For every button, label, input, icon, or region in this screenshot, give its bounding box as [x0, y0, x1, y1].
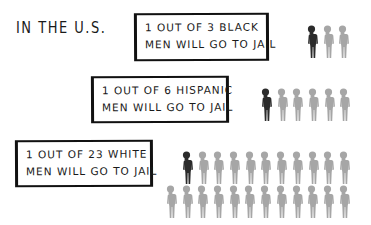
person-icon [242, 185, 255, 219]
person-icon [321, 185, 334, 219]
person-icon [258, 151, 271, 185]
person-icon [164, 185, 177, 219]
stat-box-white: 1 OUT OF 23 WHITEMEN WILL GO TO JAIL [15, 140, 153, 188]
stat-box-hispanic: 1 OUT OF 6 HISPANICMEN WILL GO TO JAIL [91, 76, 229, 124]
figure-row-black-0 [305, 25, 352, 59]
person-icon [290, 88, 303, 122]
person-icon [180, 185, 193, 219]
figure-row-hispanic-0 [259, 88, 353, 122]
figure-row-white-0 [180, 151, 353, 185]
person-icon [305, 185, 318, 219]
person-icon [337, 88, 350, 122]
person-icon [337, 151, 350, 185]
person-icon-highlighted [259, 88, 272, 122]
person-icon [337, 185, 350, 219]
person-icon [211, 151, 224, 185]
person-icon [243, 151, 256, 185]
person-icon [290, 151, 303, 185]
person-icon [275, 88, 288, 122]
person-icon [227, 151, 240, 185]
stat-box-black: 1 OUT OF 3 BLACKMEN WILL GO TO JAIL [134, 13, 269, 62]
person-icon [227, 185, 240, 219]
heading: IN THE U.S. [16, 19, 106, 36]
stat-text-line2: MEN WILL GO TO JAIL [26, 163, 144, 181]
figure-row-white-1 [164, 185, 352, 219]
person-icon [211, 185, 224, 219]
person-icon [196, 151, 209, 185]
person-icon [258, 185, 271, 219]
person-icon [321, 151, 334, 185]
person-icon [306, 88, 319, 122]
person-icon-highlighted [180, 151, 193, 185]
stat-text-line2: MEN WILL GO TO JAIL [145, 36, 260, 54]
person-icon [306, 151, 319, 185]
person-icon [290, 185, 303, 219]
stat-text-line2: MEN WILL GO TO JAIL [102, 99, 220, 117]
stat-text-line1: 1 OUT OF 23 WHITE [26, 146, 144, 164]
person-icon [336, 25, 349, 59]
person-icon-highlighted [305, 25, 318, 59]
person-icon [274, 185, 287, 219]
person-icon [321, 25, 334, 59]
stat-text-line1: 1 OUT OF 3 BLACK [145, 19, 260, 37]
person-icon [195, 185, 208, 219]
person-icon [274, 151, 287, 185]
stat-text-line1: 1 OUT OF 6 HISPANIC [102, 82, 220, 100]
person-icon [322, 88, 335, 122]
